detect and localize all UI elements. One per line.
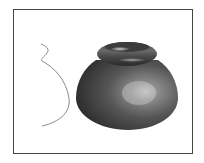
profile-curve xyxy=(41,44,69,126)
diagram-canvas xyxy=(0,0,204,163)
pot-lip-highlight-lower xyxy=(118,58,146,62)
pot-lip-highlight xyxy=(110,47,130,51)
revolved-surface xyxy=(76,42,178,130)
pot-body-highlight xyxy=(122,81,156,105)
